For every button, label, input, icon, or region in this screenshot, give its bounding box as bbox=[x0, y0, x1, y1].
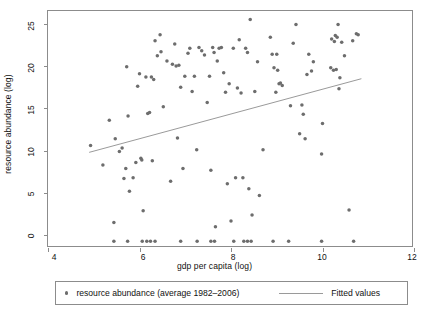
scatter-point bbox=[131, 176, 135, 180]
scatter-point bbox=[151, 159, 155, 163]
scatter-point bbox=[258, 194, 262, 198]
scatter-point bbox=[193, 74, 197, 78]
scatter-point bbox=[250, 213, 254, 217]
y-axis-title-text: resource abundance (log) bbox=[3, 74, 13, 173]
legend-entry-fitted: Fitted values bbox=[279, 282, 380, 304]
scatter-point bbox=[209, 239, 213, 243]
scatter-point bbox=[247, 187, 251, 191]
scatter-point bbox=[272, 66, 276, 70]
scatter-point bbox=[112, 239, 116, 243]
scatter-point bbox=[211, 46, 215, 50]
scatter-point bbox=[241, 176, 245, 180]
scatter-point bbox=[227, 82, 231, 86]
scatter-point bbox=[302, 113, 306, 117]
scatter-point bbox=[144, 75, 148, 79]
scatter-point bbox=[336, 23, 340, 27]
scatter-point bbox=[183, 74, 187, 78]
scatter-point bbox=[124, 167, 128, 171]
scatter-point bbox=[152, 78, 156, 82]
scatter-point bbox=[256, 60, 260, 64]
scatter-point bbox=[232, 46, 236, 50]
y-tick-label-20: 20 bbox=[20, 63, 42, 73]
scatter-point bbox=[145, 239, 149, 243]
scatter-point bbox=[269, 35, 273, 39]
scatter-point bbox=[128, 190, 132, 194]
scatter-point bbox=[334, 68, 338, 72]
scatter-point bbox=[229, 219, 233, 223]
scatter-point bbox=[236, 86, 240, 90]
scatter-point bbox=[89, 144, 93, 148]
scatter-point bbox=[212, 51, 216, 55]
scatter-point bbox=[158, 33, 162, 37]
legend-entry-scatter: resource abundance (average 1982–2006) bbox=[65, 282, 239, 304]
scatter-point bbox=[340, 41, 344, 45]
scatter-point bbox=[224, 91, 228, 95]
x-tickmark bbox=[231, 248, 232, 252]
y-tickmark bbox=[44, 108, 48, 109]
scatter-point bbox=[141, 209, 145, 213]
scatter-point bbox=[226, 182, 230, 186]
scatter-point bbox=[320, 152, 324, 156]
scatter-point bbox=[181, 167, 185, 171]
scatter-point bbox=[177, 63, 181, 67]
scatter-point bbox=[337, 87, 341, 91]
scatter-point bbox=[148, 111, 152, 115]
legend-line-icon bbox=[279, 293, 323, 294]
scatter-point bbox=[298, 132, 302, 136]
legend-label-fitted: Fitted values bbox=[331, 288, 380, 298]
scatter-point bbox=[330, 37, 334, 41]
scatter-point bbox=[186, 52, 190, 56]
scatter-point bbox=[303, 137, 307, 141]
x-tickmark bbox=[323, 248, 324, 252]
scatter-point bbox=[153, 39, 157, 43]
scatter-point bbox=[291, 41, 295, 45]
scatter-point bbox=[246, 51, 250, 55]
scatter-point bbox=[171, 63, 175, 67]
fitted-values-line bbox=[89, 79, 361, 153]
scatter-point bbox=[190, 90, 194, 94]
scatter-point bbox=[122, 177, 126, 181]
scatter-point bbox=[232, 239, 236, 243]
scatter-point bbox=[176, 136, 180, 140]
scatter-point bbox=[271, 239, 275, 243]
scatter-point bbox=[179, 85, 183, 89]
scatter-point bbox=[214, 225, 218, 229]
plot-canvas bbox=[48, 11, 414, 248]
scatter-point bbox=[179, 239, 183, 243]
scatter-point bbox=[274, 91, 278, 95]
scatter-point bbox=[169, 179, 173, 183]
scatter-point bbox=[356, 33, 360, 37]
scatter-point bbox=[234, 176, 238, 180]
scatter-point bbox=[195, 148, 199, 152]
y-tick-label-10: 10 bbox=[20, 147, 42, 157]
scatter-point bbox=[208, 74, 212, 78]
scatter-points-group bbox=[89, 18, 360, 243]
scatter-point bbox=[338, 76, 342, 80]
scatter-point bbox=[270, 52, 274, 56]
scatter-point bbox=[222, 71, 226, 75]
scatter-point bbox=[209, 168, 213, 172]
scatter-point bbox=[197, 46, 201, 50]
scatter-point bbox=[216, 59, 220, 63]
scatter-point bbox=[294, 23, 298, 27]
scatter-chart-figure: resource abundance (log) 0 5 10 15 20 25… bbox=[0, 0, 429, 320]
scatter-point bbox=[159, 50, 163, 54]
scatter-point bbox=[195, 239, 199, 243]
scatter-point bbox=[200, 49, 204, 53]
scatter-point bbox=[249, 239, 253, 243]
y-tick-label-25: 25 bbox=[20, 21, 42, 31]
scatter-point bbox=[275, 52, 279, 56]
x-tickmark bbox=[414, 248, 415, 252]
scatter-point bbox=[307, 52, 311, 56]
scatter-point bbox=[280, 84, 284, 88]
scatter-point bbox=[173, 42, 177, 46]
scatter-point bbox=[188, 46, 192, 50]
scatter-point bbox=[246, 239, 250, 243]
scatter-point bbox=[312, 60, 316, 64]
scatter-point bbox=[335, 35, 339, 39]
y-tickmark bbox=[44, 66, 48, 67]
scatter-point bbox=[347, 208, 351, 212]
scatter-point bbox=[120, 146, 124, 150]
scatter-point bbox=[305, 73, 309, 77]
scatter-point bbox=[153, 239, 157, 243]
